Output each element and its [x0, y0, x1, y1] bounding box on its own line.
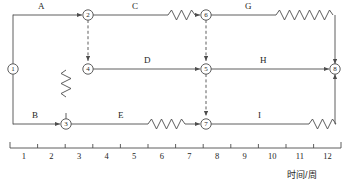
node-circle-8 — [330, 64, 340, 74]
node-circle-4 — [83, 64, 93, 74]
node-circle-6 — [201, 10, 211, 20]
node-circle-5 — [201, 64, 211, 74]
node-circle-1 — [8, 64, 18, 74]
activity-C-float-zigzag — [168, 10, 195, 20]
node-circle-7 — [201, 119, 211, 129]
activity-E-float-zigzag — [148, 119, 185, 129]
activity-F-float-zigzag — [61, 70, 71, 97]
activity-I-float-zigzag — [309, 119, 336, 129]
node-circle-2 — [83, 10, 93, 20]
riser-I-to-node8 — [335, 74, 336, 124]
diagram-canvas — [0, 0, 350, 186]
network-diagram-figure: A B C D E G H I 1 2 4 3 6 5 7 8 1 2 3 4 … — [0, 0, 350, 186]
node-circle-3 — [61, 119, 71, 129]
activity-G-float-zigzag — [276, 10, 333, 20]
